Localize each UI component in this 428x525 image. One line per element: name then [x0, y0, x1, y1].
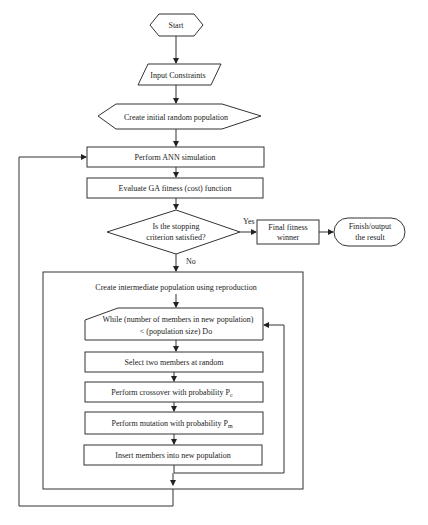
- start-node: Start: [150, 14, 203, 36]
- finish-line1: Finish/output: [349, 222, 392, 231]
- insert-members-label: Insert members into new population: [115, 451, 231, 460]
- while-loop-node: While (number of members in new populati…: [85, 308, 263, 340]
- decision-line2: criterion satisfied?: [146, 233, 206, 242]
- decision-line1: Is the stopping: [152, 222, 199, 231]
- start-label: Start: [168, 21, 184, 30]
- final-fitness-line2: winner: [277, 233, 300, 242]
- evaluate-fitness-node: Evaluate GA fitness (cost) function: [87, 178, 263, 198]
- yes-label: Yes: [243, 217, 255, 226]
- mutation-node: Perform mutation with probability Pm: [85, 412, 263, 434]
- while-line2: < (population size) Do: [140, 327, 212, 336]
- ann-simulation-label: Perform ANN simulation: [135, 153, 216, 162]
- while-line1: While (number of members in new populati…: [102, 315, 253, 324]
- crossover-node: Perform crossover with probability Pc: [85, 382, 263, 402]
- finish-terminal: Finish/output the result: [334, 218, 405, 246]
- init-population-node: Create initial random population: [98, 104, 261, 129]
- final-fitness-line1: Final fitness: [268, 223, 307, 232]
- reproduction-title: Create intermediate population using rep…: [95, 283, 256, 292]
- init-population-label: Create initial random population: [124, 113, 228, 122]
- no-label: No: [186, 257, 196, 266]
- input-constraints-node: Input Constraints: [138, 64, 221, 85]
- finish-line2: the result: [355, 233, 385, 242]
- input-constraints-label: Input Constraints: [150, 71, 205, 80]
- select-members-label: Select two members at random: [124, 358, 224, 367]
- mutation-label: Perform mutation with probability Pm: [111, 419, 232, 429]
- ann-simulation-node: Perform ANN simulation: [87, 147, 264, 167]
- ga-ann-flowchart: Start Input Constraints Create initial r…: [0, 0, 428, 525]
- insert-members-node: Insert members into new population: [84, 445, 262, 465]
- select-members-node: Select two members at random: [85, 352, 263, 372]
- stopping-criterion-decision: Is the stopping criterion satisfied?: [107, 210, 240, 254]
- final-fitness-node: Final fitness winner: [257, 220, 319, 244]
- crossover-label: Perform crossover with probability Pc: [111, 388, 233, 398]
- evaluate-fitness-label: Evaluate GA fitness (cost) function: [119, 184, 232, 193]
